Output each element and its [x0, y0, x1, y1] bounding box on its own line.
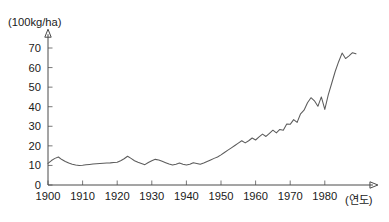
x-tick-label: 1900 [36, 190, 61, 202]
y-tick-label: 20 [29, 140, 41, 152]
data-series-line [48, 53, 356, 166]
x-tick-label: 1910 [70, 190, 95, 202]
y-tick-label: 70 [29, 42, 41, 54]
x-tick-label: 1960 [243, 190, 268, 202]
x-tick-label: 1920 [105, 190, 130, 202]
y-axis-ticks: 010203040506070 [29, 42, 53, 191]
x-axis-ticks: 190019101920193019401950196019701980 [36, 181, 338, 203]
x-tick-label: 1980 [312, 190, 337, 202]
x-tick-label: 1940 [174, 190, 199, 202]
yield-line-chart: (100kg/ha) (연도) 010203040506070 19001910… [0, 0, 389, 222]
y-tick-label: 40 [29, 101, 41, 113]
y-tick-label: 50 [29, 81, 41, 93]
y-tick-label: 30 [29, 120, 41, 132]
chart-container: (100kg/ha) (연도) 010203040506070 19001910… [0, 0, 389, 222]
x-tick-label: 1950 [209, 190, 234, 202]
x-tick-label: 1930 [139, 190, 164, 202]
y-tick-label: 60 [29, 62, 41, 74]
x-axis-title: (연도) [345, 194, 373, 206]
y-tick-label: 10 [29, 159, 41, 171]
x-tick-label: 1970 [278, 190, 303, 202]
y-axis-title: (100kg/ha) [8, 16, 62, 28]
y-axis-title-text: (100kg/ha) [8, 16, 62, 28]
x-axis-title-text: (연도) [345, 194, 373, 206]
